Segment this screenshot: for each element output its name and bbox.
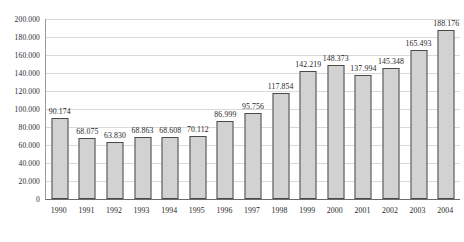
bar-slot: 188.176 <box>432 19 460 199</box>
bar-value-label: 63.830 <box>104 131 126 140</box>
bar-value-label: 68.608 <box>159 126 181 135</box>
bar-value-label: 90.174 <box>49 107 71 116</box>
bar-value-label: 188.176 <box>433 19 459 28</box>
y-axis-tick-label: 200.000 <box>15 15 40 24</box>
y-axis-tick-label: 20.000 <box>19 177 40 186</box>
x-axis: 1990199119921993199419951996199719981999… <box>45 206 459 228</box>
plot-area: 90.17468.07563.83068.86368.60870.11286.9… <box>45 19 460 200</box>
bar-value-label: 95.756 <box>242 102 264 111</box>
bar-value-label: 68.863 <box>132 126 154 135</box>
bar-slot: 70.112 <box>184 19 212 199</box>
x-axis-tick-label: 1997 <box>244 206 260 215</box>
x-axis-tick-label: 1991 <box>78 206 94 215</box>
bar-value-label: 70.112 <box>187 125 209 134</box>
bar-value-label: 142.219 <box>295 60 321 69</box>
bar-slot: 68.608 <box>156 19 184 199</box>
y-axis: 020.00040.00060.00080.000100.000120.0001… <box>0 0 44 242</box>
bar-value-label: 165.493 <box>406 39 432 48</box>
y-axis-tick-label: 100.000 <box>15 105 40 114</box>
bar[interactable] <box>272 93 289 199</box>
bar-value-label: 117.854 <box>268 82 294 91</box>
bar[interactable] <box>438 30 455 199</box>
bar-slot: 137.994 <box>350 19 378 199</box>
x-axis-tick-label: 1996 <box>216 206 232 215</box>
bar[interactable] <box>410 50 427 199</box>
x-axis-tick-label: 2003 <box>410 206 426 215</box>
bar[interactable] <box>355 75 372 199</box>
bar[interactable] <box>51 118 68 199</box>
y-axis-tick-label: 0 <box>36 195 40 204</box>
bar[interactable] <box>134 137 151 199</box>
bar[interactable] <box>327 65 344 199</box>
bar-slot: 165.493 <box>405 19 433 199</box>
y-axis-tick-label: 60.000 <box>19 141 40 150</box>
x-axis-tick-label: 1999 <box>299 206 315 215</box>
bar[interactable] <box>244 113 261 199</box>
bar-slot: 86.999 <box>212 19 240 199</box>
x-axis-tick-label: 1995 <box>189 206 205 215</box>
bar-slot: 95.756 <box>239 19 267 199</box>
x-axis-tick-label: 2002 <box>382 206 398 215</box>
bar-slot: 117.854 <box>267 19 295 199</box>
bar-value-label: 137.994 <box>350 64 376 73</box>
bar[interactable] <box>300 71 317 199</box>
bar-value-label: 86.999 <box>214 110 236 119</box>
x-axis-tick-label: 1994 <box>161 206 177 215</box>
x-axis-tick-label: 1992 <box>106 206 122 215</box>
bar[interactable] <box>217 121 234 199</box>
bar-value-label: 68.075 <box>76 127 98 136</box>
bar[interactable] <box>79 138 96 199</box>
bars-layer: 90.17468.07563.83068.86368.60870.11286.9… <box>46 19 460 199</box>
bar-slot: 68.075 <box>74 19 102 199</box>
y-axis-tick-label: 160.000 <box>15 51 40 60</box>
bar-slot: 68.863 <box>129 19 157 199</box>
bar[interactable] <box>106 142 123 199</box>
bar-value-label: 148.373 <box>323 54 349 63</box>
x-axis-tick-label: 2001 <box>354 206 370 215</box>
x-axis-tick-label: 1993 <box>134 206 150 215</box>
y-axis-tick-label: 140.000 <box>15 69 40 78</box>
bar-slot: 148.373 <box>322 19 350 199</box>
y-axis-tick-label: 80.000 <box>19 123 40 132</box>
x-axis-tick-label: 1990 <box>51 206 67 215</box>
x-axis-tick-label: 2004 <box>437 206 453 215</box>
y-axis-tick-label: 120.000 <box>15 87 40 96</box>
bar-slot: 63.830 <box>101 19 129 199</box>
bar-slot: 142.219 <box>294 19 322 199</box>
y-axis-tick-label: 40.000 <box>19 159 40 168</box>
bar-value-label: 145.348 <box>378 57 404 66</box>
y-axis-tick-label: 180.000 <box>15 33 40 42</box>
bar[interactable] <box>189 136 206 199</box>
x-axis-tick-label: 1998 <box>272 206 288 215</box>
bar-chart: 020.00040.00060.00080.000100.000120.0001… <box>0 0 464 242</box>
bar[interactable] <box>382 68 399 199</box>
x-axis-tick-label: 2000 <box>327 206 343 215</box>
bar-slot: 145.348 <box>377 19 405 199</box>
bar-slot: 90.174 <box>46 19 74 199</box>
bar[interactable] <box>162 137 179 199</box>
